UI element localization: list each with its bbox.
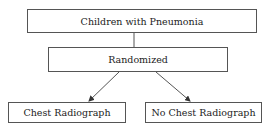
node-children-with-pneumonia: Children with Pneumonia — [27, 9, 257, 33]
node-label: No Chest Radiograph — [151, 107, 255, 118]
node-randomized: Randomized — [48, 47, 228, 72]
arrow-to-no-chest-radiograph — [156, 72, 190, 101]
arrow-to-chest-radiograph — [89, 72, 119, 101]
node-label: Randomized — [108, 54, 168, 65]
node-chest-radiograph: Chest Radiograph — [8, 102, 126, 123]
node-label: Children with Pneumonia — [81, 16, 204, 27]
node-label: Chest Radiograph — [23, 107, 110, 118]
node-no-chest-radiograph: No Chest Radiograph — [145, 102, 262, 123]
